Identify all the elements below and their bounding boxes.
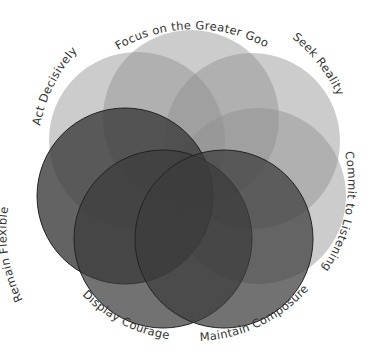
- values-circle-diagram: Act Decisively Focus on the Greater Good…: [0, 0, 383, 361]
- label-remain-flexible: Remain Flexible: [0, 205, 26, 304]
